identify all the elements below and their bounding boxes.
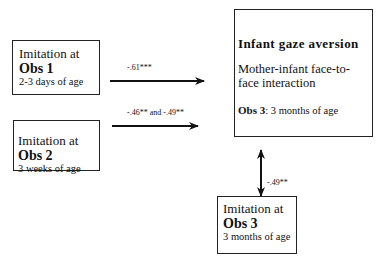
box-obs2-line3: 3 weeks of age (18, 163, 99, 175)
edge-label-obs2: -.46** and -.49** (127, 108, 184, 117)
box-obs3-line1: Imitation at (223, 201, 296, 216)
box-obs2-line2: Obs 2 (18, 148, 99, 163)
outcome-obs-label: Obs 3 (238, 104, 265, 116)
box-obs3-line3: 3 months of age (223, 231, 296, 243)
outcome-obs: Obs 3: 3 months of age (238, 104, 366, 116)
box-imitation-obs1: Imitation at Obs 1 2-3 days of age (12, 40, 100, 95)
box-outcome-gaze-aversion: Infant gaze aversion Mother-infant face-… (234, 9, 373, 137)
box-imitation-obs2: Imitation at Obs 2 3 weeks of age (13, 120, 100, 171)
outcome-obs-text: : 3 months of age (265, 105, 338, 116)
edge-label-obs1: -.61*** (127, 63, 152, 72)
box-obs2-line1: Imitation at (18, 133, 99, 148)
box-obs1-line3: 2-3 days of age (19, 76, 99, 88)
box-imitation-obs3: Imitation at Obs 3 3 months of age (217, 196, 297, 254)
outcome-description: Mother-infant face-to-face interaction (238, 62, 366, 90)
box-obs3-line2: Obs 3 (223, 216, 296, 231)
edge-label-obs3: -.49** (267, 178, 288, 187)
box-obs1-line1: Imitation at (19, 46, 99, 61)
outcome-title: Infant gaze aversion (238, 36, 366, 52)
box-obs1-line2: Obs 1 (19, 61, 99, 76)
